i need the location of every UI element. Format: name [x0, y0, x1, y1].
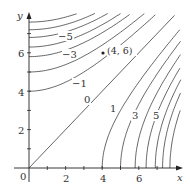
contour-level-6: [163, 93, 181, 168]
contour-plot: x y 0 2 4 6 2 4 6 0 1 3 5 −1 −3 −5 (4, 6…: [0, 0, 190, 195]
y-tick-label-2: 2: [18, 125, 24, 136]
contour-level-neg7: [29, 14, 77, 22]
y-tick-label-6: 6: [18, 48, 24, 59]
y-axis-label: y: [16, 10, 23, 21]
level-label-neg1: −1: [72, 78, 87, 89]
contour-level-0: [29, 15, 174, 168]
x-axis-label: x: [177, 172, 183, 183]
x-tick-label-2: 2: [63, 173, 69, 184]
contour-level-2: [121, 41, 181, 168]
point-label: (4, 6): [107, 45, 133, 56]
x-tick-label-4: 4: [100, 173, 106, 184]
x-axis-arrow-icon: [176, 166, 183, 171]
contour-level-7: [170, 110, 180, 168]
contour-lines: [29, 13, 181, 168]
level-label-3: 3: [132, 110, 138, 121]
origin-label: 0: [20, 171, 26, 182]
level-label-neg5: −5: [58, 31, 73, 42]
point-marker: [101, 51, 104, 54]
x-tick-label-6: 6: [136, 173, 142, 184]
y-tick-label-4: 4: [18, 87, 24, 98]
level-label-0: 0: [84, 94, 90, 105]
level-label-5: 5: [153, 110, 159, 121]
level-label-1: 1: [110, 103, 116, 114]
contour-level-5: [155, 80, 181, 168]
contour-level-neg2: [29, 14, 144, 72]
level-label-neg3: −3: [62, 49, 77, 60]
y-axis-arrow-icon: [27, 12, 32, 19]
